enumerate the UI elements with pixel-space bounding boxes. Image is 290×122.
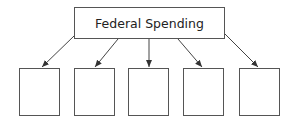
child-node-1 [19, 68, 60, 116]
child-node-5 [239, 68, 280, 116]
arrow-5 [225, 34, 258, 67]
arrow-4 [178, 39, 202, 67]
child-node-2 [74, 68, 115, 116]
root-node-label: Federal Spending [95, 16, 204, 31]
root-node: Federal Spending [74, 7, 225, 39]
arrow-1 [42, 36, 74, 67]
arrow-2 [95, 39, 118, 67]
child-node-3 [128, 68, 169, 116]
child-node-4 [183, 68, 224, 116]
